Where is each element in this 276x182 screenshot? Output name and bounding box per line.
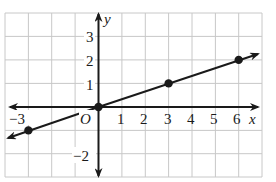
- y-tick-label: −2: [73, 148, 89, 164]
- data-point: [235, 56, 243, 64]
- coordinate-plane: y x O 3 2 1 −2 −3 1 2 3 4 5 6: [0, 0, 276, 182]
- data-point: [94, 103, 102, 111]
- x-tick-label: 5: [210, 111, 218, 127]
- x-tick-label: 2: [140, 111, 148, 127]
- plotted-line-positive: [99, 54, 259, 107]
- y-tick-label: 3: [86, 29, 94, 45]
- x-tick-label: 6: [233, 111, 241, 127]
- x-axis-label: x: [248, 111, 256, 127]
- x-tick-label: 1: [117, 111, 125, 127]
- y-tick-label: 2: [86, 53, 94, 69]
- y-axis-label: y: [102, 11, 111, 27]
- y-tick-label: 1: [86, 77, 94, 93]
- data-point: [164, 79, 172, 87]
- x-tick-label: 4: [187, 111, 195, 127]
- x-tick-label: 3: [164, 111, 172, 127]
- data-point: [24, 126, 32, 134]
- x-tick-label: −3: [9, 111, 25, 127]
- origin-label: O: [80, 111, 91, 127]
